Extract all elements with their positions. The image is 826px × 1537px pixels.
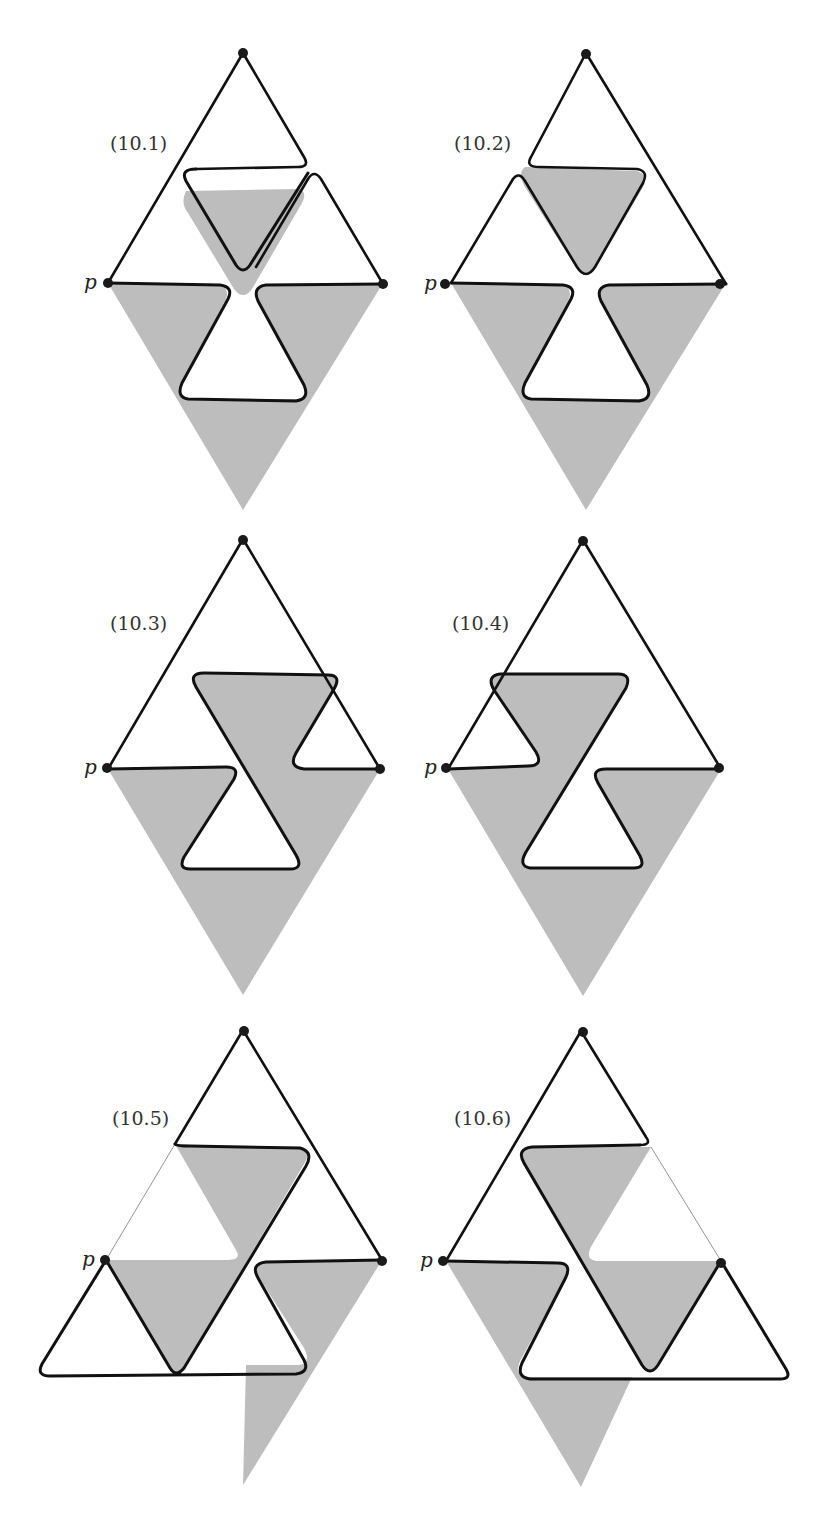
vertex-dot-right xyxy=(377,1256,387,1266)
vertex-dot-p xyxy=(441,763,451,773)
panel-10-4 xyxy=(448,540,721,996)
vertex-dot-right xyxy=(715,279,725,289)
vertex-label-p: p xyxy=(424,271,437,295)
vertex-dot-top xyxy=(578,1027,588,1037)
panel-label: (10.1) xyxy=(110,132,167,154)
vertex-dot-top xyxy=(578,536,588,546)
thin-edge xyxy=(651,1147,721,1261)
vertex-dots xyxy=(100,48,726,1268)
vertex-dot-p xyxy=(102,763,112,773)
vertex-dot-p xyxy=(103,278,113,288)
shaded-region xyxy=(451,283,726,510)
panel-label: (10.5) xyxy=(112,1107,169,1129)
vertex-dot-right xyxy=(378,279,388,289)
vertex-label-p: p xyxy=(424,755,437,779)
shaded-region xyxy=(448,674,721,996)
vertex-label-p: p xyxy=(420,1248,433,1272)
shaded-region xyxy=(106,1144,307,1373)
vertex-label-p: p xyxy=(84,270,97,294)
panel-label: (10.2) xyxy=(454,132,511,154)
shaded-region xyxy=(243,1260,382,1485)
vertex-dot-right xyxy=(716,1258,726,1268)
vertex-dot-p xyxy=(438,1256,448,1266)
shaded-region xyxy=(108,283,383,510)
vertex-dot-top xyxy=(581,49,591,59)
shaded-region xyxy=(108,673,380,995)
panel-label: (10.6) xyxy=(454,1107,511,1129)
panel-10-1 xyxy=(108,53,383,510)
vertex-dot-p xyxy=(100,1255,110,1265)
vertex-dot-top xyxy=(239,1026,249,1036)
panel-label: (10.3) xyxy=(110,612,167,634)
vertex-dot-right xyxy=(375,764,385,774)
vertex-label-p: p xyxy=(82,1247,95,1271)
thin-edge xyxy=(106,1144,175,1260)
vertex-dot-top xyxy=(238,48,248,58)
vertex-dot-top xyxy=(238,535,248,545)
figure-canvas: (10.1) (10.2) (10.3) (10.4) (10.5) (10.6… xyxy=(0,0,826,1537)
shaded-region xyxy=(521,1147,721,1371)
panel-10-6 xyxy=(446,1031,788,1487)
vertex-label-p: p xyxy=(84,755,97,779)
panel-10-2 xyxy=(451,53,726,510)
shaded-region xyxy=(521,167,645,275)
vertex-dot-p xyxy=(440,279,450,289)
triangle-edge xyxy=(108,53,306,283)
panel-label: (10.4) xyxy=(452,612,509,634)
vertex-dot-right xyxy=(714,763,724,773)
panel-10-3 xyxy=(108,539,380,995)
